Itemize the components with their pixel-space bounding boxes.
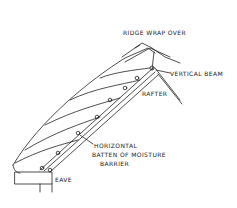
label-eave: EAVE	[55, 176, 72, 183]
roof-sketch	[0, 0, 237, 208]
label-batten-line1: HORIZONTAL	[94, 142, 137, 149]
label-batten-line3: BARRIER	[100, 160, 129, 167]
label-rafter: RAFTER	[142, 90, 167, 97]
label-ridge-wrap: RIDGE WRAP OVER	[123, 29, 186, 36]
label-vertical-beam: VERTICAL BEAM	[170, 70, 223, 77]
label-batten-line2: BATTEN OF MOISTURE	[92, 151, 166, 158]
